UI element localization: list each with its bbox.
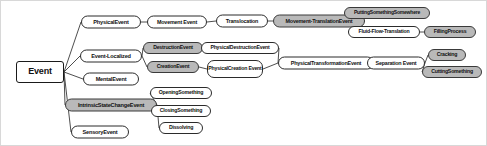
node-label: PhysicalTransformationEvent [291, 60, 361, 66]
node-label: PhysicalCreation Event [208, 66, 261, 71]
node-event[interactable]: Event [16, 61, 64, 83]
node-physical_creation[interactable]: PhysicalCreation Event [207, 60, 263, 78]
edge-event-to-physical_event [64, 22, 81, 72]
node-label: ClosingSomething [160, 108, 203, 113]
node-physical_event[interactable]: PhysicalEvent [81, 16, 141, 29]
node-label: CreationEvent [157, 64, 190, 69]
node-filling_process[interactable]: FillingProcess [424, 26, 476, 38]
node-label: PuttingSomethingSomewhere [354, 10, 420, 15]
node-closing_something[interactable]: ClosingSomething [151, 105, 211, 117]
node-label: Movement Event [157, 19, 197, 25]
node-label: PhysicalDestructionEvent [210, 45, 269, 50]
edge-movement_event-to-translocation [207, 21, 216, 22]
node-creation_event[interactable]: CreationEvent [147, 61, 199, 73]
ontology-diagram-canvas: EventPhysicalEventEvent-LocalizedMentalE… [0, 0, 487, 146]
node-movement_event[interactable]: Movement Event [147, 16, 207, 29]
node-label: SensoryEvent [83, 129, 118, 135]
node-event_localized[interactable]: Event-Localized [80, 50, 142, 63]
node-physical_destruction[interactable]: PhysicalDestructionEvent [201, 42, 279, 54]
node-sensory_event[interactable]: SensoryEvent [71, 126, 129, 139]
node-putting_something_somewhere[interactable]: PuttingSomethingSomewhere [344, 7, 430, 19]
node-label: IntrinsicStateChangeEvent [78, 102, 144, 108]
node-label: OpeningSomething [159, 90, 204, 95]
node-label: DestructionEvent [153, 45, 193, 50]
node-label: CuttingSomething [431, 69, 473, 74]
node-cracking[interactable]: Cracking [428, 49, 466, 61]
node-label: Separation Event [376, 60, 417, 66]
node-physical_transformation[interactable]: PhysicalTransformationEvent [278, 57, 374, 70]
edge-physical_creation-to-physical_transformation [263, 63, 278, 69]
node-opening_something[interactable]: OpeningSomething [150, 87, 212, 99]
node-label: Event-Localized [91, 53, 131, 59]
node-label: MentalEvent [96, 76, 127, 82]
node-separation_event[interactable]: Separation Event [367, 57, 425, 70]
node-cutting_something[interactable]: CuttingSomething [422, 66, 482, 78]
node-label: Translocation [226, 18, 258, 24]
node-label: Cracking [437, 52, 458, 57]
node-destruction_event[interactable]: DestructionEvent [143, 42, 203, 54]
node-dissolving[interactable]: Dissolving [159, 122, 203, 134]
node-label: Event [28, 67, 52, 76]
node-label: PhysicalEvent [93, 19, 128, 25]
node-label: Dissolving [169, 125, 193, 130]
node-label: Fluid-Flow-Translation [359, 29, 410, 34]
node-label: FillingProcess [434, 29, 467, 34]
node-intrinsic_state_change[interactable]: IntrinsicStateChangeEvent [65, 99, 157, 112]
node-fluid_flow_translation[interactable]: Fluid-Flow-Translation [348, 26, 420, 38]
node-translocation[interactable]: Translocation [216, 15, 268, 28]
edge-event-to-mental_event [64, 72, 83, 79]
edge-creation_event-to-physical_creation [199, 67, 207, 69]
node-mental_event[interactable]: MentalEvent [83, 73, 139, 86]
node-label: Movement-TranslationEvent [286, 18, 353, 24]
